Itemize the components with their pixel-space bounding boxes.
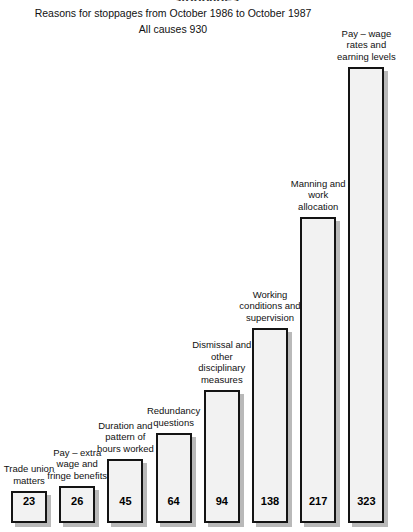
- bar-group[interactable]: Working conditions and supervision138: [252, 328, 288, 523]
- bar-group[interactable]: Duration and pattern of hours worked45: [107, 459, 143, 523]
- bar-rect[interactable]: 45: [107, 459, 143, 523]
- bar-rect[interactable]: 138: [252, 328, 288, 523]
- bar-category-label: Redundancy questions: [143, 405, 205, 428]
- bar-value-label: 64: [158, 495, 190, 507]
- bar-group[interactable]: Pay – wage rates and earning levels323: [348, 67, 384, 523]
- bar-value-label: 323: [350, 495, 382, 507]
- bar-group[interactable]: Trade union matters23: [11, 491, 47, 523]
- bar-value-label: 217: [302, 495, 334, 507]
- bar-rect[interactable]: 323: [348, 67, 384, 523]
- bar-category-label: Working conditions and supervision: [239, 289, 301, 324]
- bar-value-label: 23: [13, 495, 45, 507]
- bar-rect[interactable]: 23: [11, 491, 47, 523]
- bar-group[interactable]: Manning and work allocation217: [300, 217, 336, 523]
- bar-value-label: 26: [61, 495, 93, 507]
- bar-value-label: 94: [206, 495, 238, 507]
- plot-area: Trade union matters23Pay – extra wage an…: [0, 0, 413, 532]
- bar-rect[interactable]: 94: [204, 390, 240, 523]
- bar-value-label: 45: [109, 495, 141, 507]
- bar-group[interactable]: Pay – extra wage and fringe benefits26: [59, 486, 95, 523]
- bar-group[interactable]: Dismissal and other disciplinary measure…: [204, 390, 240, 523]
- bar-chart: stoppages Reasons for stoppages from Oct…: [0, 0, 413, 532]
- bar-category-label: Manning and work allocation: [287, 178, 349, 213]
- bar-group[interactable]: Redundancy questions64: [156, 433, 192, 523]
- bar-category-label: Dismissal and other disciplinary measure…: [191, 339, 253, 385]
- bar-value-label: 138: [254, 495, 286, 507]
- bar-rect[interactable]: 64: [156, 433, 192, 523]
- bar-rect[interactable]: 217: [300, 217, 336, 523]
- bar-category-label: Pay – wage rates and earning levels: [335, 28, 397, 63]
- bar-rect[interactable]: 26: [59, 486, 95, 523]
